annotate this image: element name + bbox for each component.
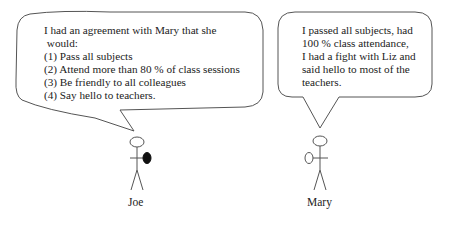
joe-speech-item: (1) Pass all subjects bbox=[44, 50, 133, 63]
joe-filled-oval-icon bbox=[143, 153, 151, 164]
joe-speech-item: (4) Say hello to teachers. bbox=[44, 89, 156, 102]
mary-empty-oval-icon bbox=[305, 153, 313, 164]
mary-speech-line: I had a fight with Liz and bbox=[302, 50, 416, 63]
joe-speech-item: (3) Be friendly to all colleagues bbox=[44, 76, 186, 89]
mary-speech-line: 100 % class attendance, bbox=[302, 37, 409, 50]
mary-name-label: Mary bbox=[307, 196, 332, 208]
mary-figure bbox=[305, 136, 328, 190]
mary-speech-line: teachers. bbox=[302, 76, 341, 89]
joe-figure bbox=[130, 137, 151, 190]
joe-name-label: Joe bbox=[128, 196, 143, 208]
joe-head bbox=[130, 137, 144, 147]
joe-speech-line-1: I had an agreement with Mary that she bbox=[44, 24, 216, 37]
mary-speech-line: I passed all subjects, had bbox=[302, 24, 413, 37]
mary-head bbox=[313, 136, 327, 146]
joe-speech-item: (2) Attend more than 80 % of class sessi… bbox=[44, 63, 240, 76]
joe-speech-line-2: would: bbox=[44, 37, 78, 50]
mary-speech-line: said hello to most of the bbox=[302, 63, 410, 76]
